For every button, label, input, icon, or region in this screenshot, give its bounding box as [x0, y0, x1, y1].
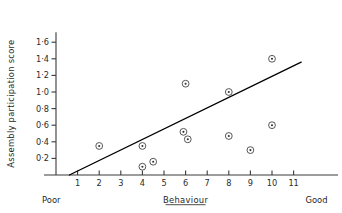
marker-center-dot: [141, 145, 143, 147]
data-point-marker: [184, 136, 191, 143]
data-point-marker: [225, 89, 232, 96]
marker-center-dot: [271, 58, 273, 60]
data-point-marker: [180, 128, 187, 135]
x-tick-label: 4: [140, 178, 145, 188]
marker-center-dot: [271, 124, 273, 126]
y-tick-label: 1·2: [36, 70, 49, 80]
x-axis-low-label: Poor: [42, 195, 61, 205]
marker-center-dot: [228, 91, 230, 93]
x-tick-label: 7: [205, 178, 210, 188]
x-tick-label: 8: [226, 178, 231, 188]
x-tick-label: 2: [97, 178, 102, 188]
marker-center-dot: [182, 131, 184, 133]
marker-center-dot: [141, 166, 143, 168]
data-point-marker: [269, 122, 276, 129]
chart-canvas: 0·20·40·60·81·01·21·41·61234567891011Ass…: [0, 0, 342, 213]
y-tick-label: 0·4: [36, 137, 49, 147]
x-tick-label: 11: [288, 178, 298, 188]
y-tick-label: 0·2: [36, 153, 49, 163]
x-tick-label: 6: [183, 178, 188, 188]
marker-center-dot: [185, 83, 187, 85]
data-point-marker: [139, 163, 146, 170]
x-tick-label: 9: [248, 178, 253, 188]
y-tick-label: 0·6: [36, 120, 49, 130]
y-tick-label: 0·8: [36, 104, 49, 114]
marker-center-dot: [249, 149, 251, 151]
y-tick-label: 1·6: [36, 37, 49, 47]
data-point-marker: [96, 143, 103, 150]
data-point-marker: [247, 147, 254, 154]
x-axis-high-label: Good: [305, 195, 327, 205]
x-tick-label: 5: [161, 178, 166, 188]
regression-line: [69, 62, 301, 175]
data-point-marker: [139, 143, 146, 150]
marker-center-dot: [98, 145, 100, 147]
marker-center-dot: [228, 135, 230, 137]
marker-center-dot: [152, 161, 154, 163]
x-tick-label: 1: [75, 178, 80, 188]
marker-center-dot: [187, 138, 189, 140]
x-tick-label: 10: [267, 178, 277, 188]
data-point-marker: [269, 55, 276, 62]
y-tick-label: 1·4: [36, 54, 49, 64]
y-tick-label: 1·0: [36, 87, 49, 97]
y-axis-title: Assembly participation score: [6, 40, 16, 168]
data-point-marker: [225, 133, 232, 140]
data-point-marker: [182, 80, 189, 87]
x-tick-label: 3: [118, 178, 123, 188]
scatter-plot-figure: 0·20·40·60·81·01·21·41·61234567891011Ass…: [0, 0, 342, 213]
data-point-marker: [150, 158, 157, 165]
x-axis-title: Behaviour: [163, 195, 208, 205]
